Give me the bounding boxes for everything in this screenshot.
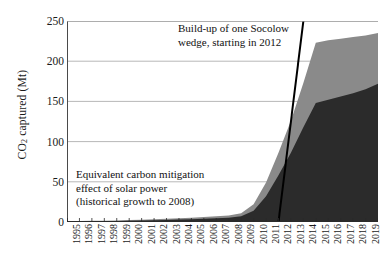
x-axis-tick-label: 2010 bbox=[258, 224, 269, 268]
wedge-annotation: Build-up of one Socolowwedge, starting i… bbox=[178, 22, 289, 49]
x-axis-tick-label: 2007 bbox=[220, 224, 231, 268]
solar-annotation: Equivalent carbon mitigationeffect of so… bbox=[76, 168, 204, 209]
x-axis-tick-label: 2005 bbox=[195, 224, 206, 268]
x-axis-tick-label: 2012 bbox=[282, 224, 293, 268]
x-axis-tick-label: 2011 bbox=[270, 224, 281, 268]
y-axis-tick-label: 250 bbox=[30, 16, 64, 26]
x-axis-tick-label: 2019 bbox=[370, 224, 381, 268]
x-axis-tick-label: 2001 bbox=[146, 224, 157, 268]
x-axis-tick-label: 2006 bbox=[208, 224, 219, 268]
x-axis-tick-label: 2014 bbox=[307, 224, 318, 268]
x-axis-tick-label: 2009 bbox=[245, 224, 256, 268]
x-axis-tick-label: 1995 bbox=[71, 224, 82, 268]
y-axis-tick-label: 50 bbox=[30, 177, 64, 187]
x-axis-tick-label: 2018 bbox=[357, 224, 368, 268]
y-axis-tick-label: 150 bbox=[30, 96, 64, 106]
x-axis-tick-labels: 1995199619971998199920002001200220032004… bbox=[67, 226, 378, 268]
x-axis-tick-label: 1997 bbox=[96, 224, 107, 268]
y-axis-tick-label: 200 bbox=[30, 56, 64, 66]
x-axis-tick-label: 2017 bbox=[345, 224, 356, 268]
x-axis-tick-label: 2000 bbox=[133, 224, 144, 268]
chart-figure: CO2 captured (Mt) 050100150200250 199519… bbox=[0, 0, 382, 268]
y-axis-tick-label: 0 bbox=[30, 217, 64, 227]
x-axis-tick-label: 2003 bbox=[171, 224, 182, 268]
annotation-line: wedge, starting in 2012 bbox=[178, 36, 289, 50]
x-axis-tick-label: 2008 bbox=[233, 224, 244, 268]
annotation-line: Build-up of one Socolow bbox=[178, 22, 289, 36]
x-axis-tick-label: 1996 bbox=[83, 224, 94, 268]
annotation-line: effect of solar power bbox=[76, 182, 204, 196]
x-axis-tick-label: 2016 bbox=[332, 224, 343, 268]
x-axis-tick-label: 2002 bbox=[158, 224, 169, 268]
x-axis-tick-label: 1998 bbox=[108, 224, 119, 268]
x-axis-tick-label: 2013 bbox=[295, 224, 306, 268]
annotation-line: (historical growth to 2008) bbox=[76, 195, 204, 209]
x-axis-tick-label: 1999 bbox=[121, 224, 132, 268]
x-axis-tick-label: 2015 bbox=[320, 224, 331, 268]
annotation-line: Equivalent carbon mitigation bbox=[76, 168, 204, 182]
y-axis-tick-labels: 050100150200250 bbox=[26, 0, 64, 268]
y-axis-tick-label: 100 bbox=[30, 137, 64, 147]
x-axis-tick-label: 2004 bbox=[183, 224, 194, 268]
